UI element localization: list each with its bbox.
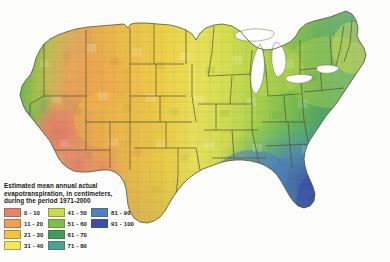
legend-entry-81-90[interactable]: 81 - 90 <box>91 208 134 218</box>
legend-label-41-50: 41 - 50 <box>68 210 88 216</box>
legend-column-3: 81 - 90 91 - 100 <box>91 208 134 229</box>
legend-entry-0-10[interactable]: 0 - 10 <box>4 208 44 218</box>
legend-column-2: 41 - 50 51 - 60 61 - 70 71 - 80 <box>48 208 88 251</box>
map-screenshot: Estimated mean annual actual evapotransp… <box>0 0 390 262</box>
region-upper-midwest <box>232 44 304 96</box>
legend-entry-91-100[interactable]: 91 - 100 <box>91 219 134 229</box>
legend-swatch-61-70 <box>48 230 65 239</box>
evapotranspiration-map-figure: Estimated mean annual actual evapotransp… <box>0 0 390 262</box>
legend-swatch-71-80 <box>48 241 65 250</box>
legend-entry-21-30[interactable]: 21 - 30 <box>4 230 44 240</box>
legend-entry-61-70[interactable]: 61 - 70 <box>48 230 88 240</box>
legend-swatch-31-40 <box>4 241 21 250</box>
legend-swatch-41-50 <box>48 208 65 217</box>
legend-label-71-80: 71 - 80 <box>68 243 88 249</box>
legend-entry-11-20[interactable]: 11 - 20 <box>4 219 44 229</box>
legend-label-51-60: 51 - 60 <box>68 221 88 227</box>
region-central-rockies <box>74 92 134 148</box>
legend-entry-71-80[interactable]: 71 - 80 <box>48 241 88 251</box>
legend-label-61-70: 61 - 70 <box>68 232 88 238</box>
legend-label-21-30: 21 - 30 <box>24 232 44 238</box>
legend-title: Estimated mean annual actual evapotransp… <box>4 182 136 205</box>
legend-entry-51-60[interactable]: 51 - 60 <box>48 219 88 229</box>
legend-column-1: 0 - 10 11 - 20 21 - 30 31 - 40 <box>4 208 44 251</box>
legend-label-81-90: 81 - 90 <box>111 210 131 216</box>
legend-swatch-21-30 <box>4 230 21 239</box>
legend-entry-41-50[interactable]: 41 - 50 <box>48 208 88 218</box>
map-legend: Estimated mean annual actual evapotransp… <box>4 182 154 250</box>
legend-label-11-20: 11 - 20 <box>24 221 43 227</box>
legend-label-0-10: 0 - 10 <box>24 210 40 216</box>
legend-swatch-51-60 <box>48 219 65 228</box>
legend-swatch-11-20 <box>4 219 21 228</box>
legend-entry-31-40[interactable]: 31 - 40 <box>4 241 44 251</box>
legend-swatch-81-90 <box>91 208 108 217</box>
legend-swatch-0-10 <box>4 208 21 217</box>
legend-columns: 0 - 10 11 - 20 21 - 30 31 - 40 <box>4 208 154 251</box>
legend-label-31-40: 31 - 40 <box>24 243 44 249</box>
legend-swatch-91-100 <box>91 219 108 228</box>
legend-label-91-100: 91 - 100 <box>111 221 134 227</box>
